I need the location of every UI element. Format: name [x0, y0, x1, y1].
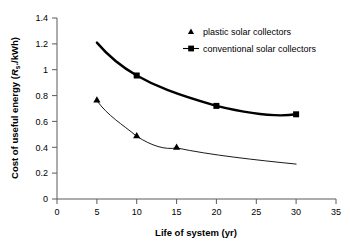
y-tick-label-0.6: 0.6 — [35, 117, 48, 127]
y-tick-label-1.2: 1.2 — [35, 39, 48, 49]
data-point-conventional-30 — [293, 111, 299, 117]
x-tick-label-5: 5 — [94, 207, 99, 217]
data-point-conventional-20 — [213, 103, 219, 109]
chart-figure: 0 0.2 0.4 0.6 0.8 1 1.2 1.4 0 5 10 15 20… — [0, 0, 350, 247]
chart-plot-area: 0 0.2 0.4 0.6 0.8 1 1.2 1.4 0 5 10 15 20… — [0, 0, 350, 247]
data-point-plastic-15 — [173, 144, 180, 150]
legend-marker-triangle-icon — [188, 29, 194, 35]
legend-label-plastic: plastic solar collectors — [203, 27, 292, 37]
x-tick-label-30: 30 — [291, 207, 301, 217]
y-axis-ticks — [52, 18, 57, 199]
x-tick-label-35: 35 — [331, 207, 341, 217]
series-curve-plastic — [97, 101, 296, 164]
series-markers-plastic — [93, 96, 180, 150]
x-axis-ticks — [57, 199, 336, 204]
y-tick-label-0.8: 0.8 — [35, 91, 48, 101]
y-tick-label-0.4: 0.4 — [35, 143, 48, 153]
x-tick-label-0: 0 — [54, 207, 59, 217]
data-point-conventional-10 — [134, 73, 140, 79]
x-axis-title: Life of system (yr) — [155, 227, 237, 238]
x-tick-label-25: 25 — [251, 207, 261, 217]
y-tick-label-1: 1 — [43, 65, 48, 75]
svg-text:Cost of useful energy (Rs./kWh: Cost of useful energy (Rs./kWh) — [9, 37, 21, 179]
series-markers-conventional — [134, 73, 299, 118]
x-tick-label-10: 10 — [132, 207, 142, 217]
chart-legend: plastic solar collectors conventional so… — [183, 27, 317, 54]
y-axis-title-suffix: ./kWh) — [9, 37, 20, 66]
y-tick-label-0: 0 — [43, 194, 48, 204]
y-tick-label-1.4: 1.4 — [35, 13, 48, 23]
data-point-plastic-5 — [93, 96, 100, 102]
legend-marker-square-icon — [188, 46, 194, 52]
x-tick-label-20: 20 — [211, 207, 221, 217]
y-tick-label-0.2: 0.2 — [35, 168, 48, 178]
legend-label-conventional: conventional solar collectors — [203, 44, 317, 54]
data-point-plastic-10 — [133, 132, 140, 138]
y-axis-title: Cost of useful energy (Rs./kWh) — [9, 37, 21, 179]
x-tick-label-15: 15 — [172, 207, 182, 217]
y-axis-title-prefix: Cost of useful energy ( — [9, 75, 20, 179]
